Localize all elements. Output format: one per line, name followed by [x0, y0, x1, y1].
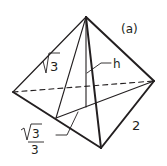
hidden-edge-left-right [13, 81, 154, 92]
panel-label: (a) [121, 22, 138, 36]
tetrahedron-diagram: (a) 3 h 2 3 3 [0, 0, 167, 166]
edge-length-label: 2 [132, 118, 140, 133]
edge-left-bottom [13, 92, 101, 148]
slant-height-radicand: 3 [50, 59, 58, 74]
inradius-denominator: 3 [31, 143, 39, 157]
inradius-numerator: 3 [32, 127, 40, 141]
edge-apex-right [86, 17, 154, 81]
edge-apex-bottom [86, 17, 101, 148]
inradius-label: 3 3 [21, 124, 44, 157]
height-label: h [113, 57, 121, 71]
slant-height-label: 3 [41, 53, 60, 74]
